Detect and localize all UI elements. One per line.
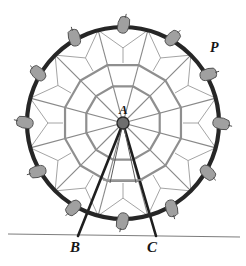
rim-strut [55, 55, 85, 58]
rim-strut [55, 55, 58, 85]
support-leg-inner-right [123, 123, 136, 183]
gondola-body [212, 116, 231, 131]
rim-strut-inner [175, 85, 188, 93]
rim-strut [161, 55, 191, 58]
rim-strut-inner [58, 153, 71, 161]
rim-strut-inner [175, 153, 188, 161]
gondola [13, 114, 35, 130]
label-point-a: A [119, 103, 128, 116]
rim-strut [188, 55, 191, 85]
label-point-b: B [70, 240, 80, 255]
rim-strut [55, 161, 58, 191]
rim-strut-inner [85, 58, 93, 71]
rim-strut-inner [58, 85, 71, 93]
wheel-spoke [98, 123, 123, 216]
gondola-body [15, 115, 34, 130]
rim-strut [55, 188, 85, 191]
rim-strut-inner [85, 175, 93, 188]
wheel-hub [117, 117, 129, 129]
gondola-body [115, 212, 130, 231]
ground-layer [8, 234, 240, 237]
label-point-c: C [147, 240, 157, 255]
gondola [114, 212, 130, 234]
rim-strut-inner [153, 58, 161, 71]
hub-layer [117, 117, 129, 129]
rim-strut-inner [153, 175, 161, 188]
gondola-body [116, 15, 131, 34]
ground-line [8, 234, 240, 237]
wheel-spoke [123, 98, 216, 123]
ferris-wheel-figure: A P B C [0, 0, 246, 266]
gondola [116, 13, 132, 35]
rim-strut [188, 161, 191, 191]
label-point-p: P [210, 41, 219, 55]
wheel-spoke [30, 123, 123, 148]
wheel-spoke [123, 123, 216, 148]
gondola [212, 116, 234, 132]
rim-strut [161, 188, 191, 191]
wheel-spoke [30, 98, 123, 123]
